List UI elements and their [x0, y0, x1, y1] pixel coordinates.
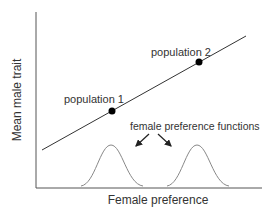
arrow-left-icon — [136, 134, 149, 146]
population-2-label: population 2 — [151, 46, 211, 58]
diagram-canvas: population 1 population 2 female prefere… — [0, 0, 270, 218]
x-axis-label: Female preference — [108, 193, 209, 207]
population-2-dot — [196, 59, 203, 66]
population-1-dot — [109, 108, 116, 115]
preference-functions-label: female preference functions — [130, 120, 260, 132]
preference-curve-1 — [81, 145, 143, 186]
y-axis-label: Mean male trait — [10, 58, 24, 141]
preference-curve-2 — [167, 145, 229, 186]
arrow-right-icon — [158, 134, 171, 146]
population-1-label: population 1 — [64, 93, 124, 105]
